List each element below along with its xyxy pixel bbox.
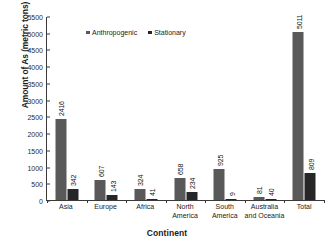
bar-value-label: 607 <box>98 166 105 177</box>
x-axis-label-line: America <box>205 212 245 221</box>
bar-group: 8140 <box>245 17 285 200</box>
bar-value-label: 342 <box>70 174 77 185</box>
bar-anthropogenic[interactable]: 607 <box>95 180 106 200</box>
y-tick-label: 1000 <box>27 164 47 171</box>
x-axis-label-line: Europe <box>86 203 126 212</box>
y-tick-label: 3500 <box>27 80 47 87</box>
bar-group: 9259 <box>205 17 245 200</box>
y-tick-label: 4500 <box>27 47 47 54</box>
bar-stationary[interactable]: 9 <box>226 199 237 200</box>
bar-value-label: 809 <box>308 159 315 170</box>
y-tick-label: 2500 <box>27 114 47 121</box>
bar-chart: Amount of As (metric tons) Anthropogenic… <box>0 0 334 245</box>
y-tick-label: 3000 <box>27 97 47 104</box>
y-tick-label: 5500 <box>27 14 47 21</box>
bar-pair: 5011809 <box>293 17 316 200</box>
bar-value-label: 41 <box>149 188 156 195</box>
bar-value-label: 81 <box>256 187 263 194</box>
x-axis-label-line: Australia <box>245 203 285 212</box>
bar-anthropogenic[interactable]: 925 <box>214 169 225 200</box>
bar-group: 607143 <box>87 17 127 200</box>
x-axis-label-line: Asia <box>46 203 86 212</box>
bar-anthropogenic[interactable]: 5011 <box>293 32 304 200</box>
bar-stationary[interactable]: 143 <box>107 195 118 200</box>
bar-value-label: 925 <box>217 155 224 166</box>
bar-stationary[interactable]: 342 <box>67 189 78 200</box>
bar-value-label: 234 <box>189 178 196 189</box>
bar-pair: 32441 <box>134 17 157 200</box>
bar-group: 2416342 <box>47 17 87 200</box>
bar-stationary[interactable]: 41 <box>146 199 157 200</box>
x-axis-label-line: South <box>205 203 245 212</box>
x-axis-label-line: Africa <box>125 203 165 212</box>
y-tick-label: 1500 <box>27 147 47 154</box>
y-tick-label: 4000 <box>27 64 47 71</box>
y-tick-label: 2000 <box>27 131 47 138</box>
bar-stationary[interactable]: 809 <box>305 173 316 200</box>
bar-anthropogenic[interactable]: 324 <box>134 189 145 200</box>
bar-pair: 9259 <box>214 17 237 200</box>
bar-pair: 2416342 <box>55 17 78 200</box>
bar-pair: 658234 <box>174 17 197 200</box>
bar-anthropogenic[interactable]: 81 <box>253 197 264 200</box>
bar-value-label: 2416 <box>58 101 65 116</box>
x-axis-title: Continent <box>0 228 334 238</box>
x-axis-label-line: North <box>165 203 205 212</box>
bar-group: 5011809 <box>284 17 324 200</box>
bar-value-label: 5011 <box>296 15 303 29</box>
bar-pair: 8140 <box>253 17 276 200</box>
x-axis-label: Australiaand Oceania <box>245 203 285 220</box>
y-tick-label: 500 <box>31 181 47 188</box>
x-axis-label-line: and Oceania <box>245 212 285 221</box>
y-tick-label: 5000 <box>27 30 47 37</box>
x-tick-mark <box>324 200 325 203</box>
x-axis-label: SouthAmerica <box>205 203 245 220</box>
bar-pair: 607143 <box>95 17 118 200</box>
bar-value-label: 40 <box>268 188 275 195</box>
bar-value-label: 143 <box>110 181 117 192</box>
x-axis-label: Total <box>284 203 324 220</box>
x-axis-label-line: America <box>165 212 205 221</box>
bar-value-label: 658 <box>177 164 184 175</box>
bar-groups: 241634260714332441658234925981405011809 <box>47 17 324 200</box>
x-axis-label-line: Total <box>284 203 324 212</box>
x-axis-labels: AsiaEuropeAfricaNorthAmericaSouthAmerica… <box>46 203 324 220</box>
bar-group: 658234 <box>166 17 206 200</box>
bar-stationary[interactable]: 40 <box>265 199 276 200</box>
bar-group: 32441 <box>126 17 166 200</box>
x-axis-label: Europe <box>86 203 126 220</box>
plot-area: 0500100015002000250030003500400045005000… <box>46 17 324 201</box>
x-axis-label: Asia <box>46 203 86 220</box>
bar-value-label: 324 <box>137 175 144 186</box>
bar-anthropogenic[interactable]: 658 <box>174 178 185 200</box>
x-axis-label: NorthAmerica <box>165 203 205 220</box>
bar-value-label: 9 <box>229 193 236 197</box>
bar-anthropogenic[interactable]: 2416 <box>55 119 66 200</box>
bar-stationary[interactable]: 234 <box>186 192 197 200</box>
x-axis-label: Africa <box>125 203 165 220</box>
